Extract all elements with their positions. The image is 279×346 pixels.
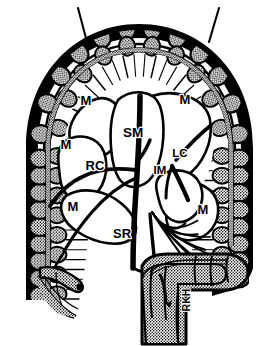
label-marginal-artery-2: M	[180, 92, 191, 107]
label-left-colic: LC	[172, 147, 187, 159]
label-inferior-mesenteric: IM	[154, 164, 167, 176]
label-marginal-artery-1: M	[81, 93, 92, 108]
label-superior-rectal: SR	[113, 226, 132, 241]
label-marginal-artery-3: M	[61, 137, 72, 152]
colon-anatomy-figure: M M M M M SM RC LC IM SR RKH	[0, 0, 279, 346]
figure-canvas: M M M M M SM RC LC IM SR RKH	[0, 0, 279, 346]
label-right-colic: RC	[86, 158, 105, 173]
label-marginal-artery-5: M	[198, 202, 209, 217]
label-marginal-artery-4: M	[68, 199, 79, 214]
label-superior-mesenteric: SM	[123, 125, 143, 140]
label-rkh: RKH	[180, 289, 192, 312]
